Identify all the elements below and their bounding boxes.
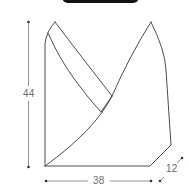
width-label: 38 bbox=[91, 175, 107, 186]
bag-outline bbox=[45, 22, 171, 166]
depth-label: 12 bbox=[164, 163, 180, 174]
height-label: 44 bbox=[21, 88, 37, 99]
